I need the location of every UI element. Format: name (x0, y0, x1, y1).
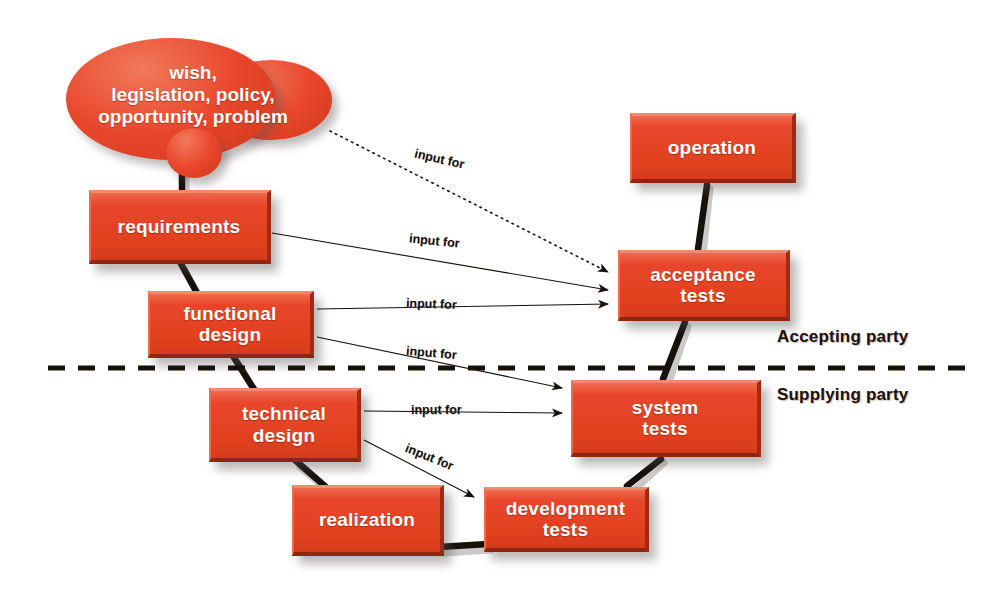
edge-label-input-for-5: input for (411, 403, 462, 417)
edge-label-input-for-3: input for (406, 296, 457, 312)
label-accepting-party: Accepting party (777, 327, 908, 347)
label-supplying-party: Supplying party (777, 385, 908, 405)
edge-label-input-for-5-text: input for (411, 403, 462, 417)
arrow-functional-design-to-system-tests (317, 337, 562, 388)
arrow-functional-design-to-acceptance-tests (317, 304, 608, 309)
arrow-layer (0, 0, 999, 601)
arrow-cloud-to-acceptance-tests (330, 131, 608, 272)
label-supplying-party-text: Supplying party (777, 385, 908, 404)
label-accepting-party-text: Accepting party (777, 327, 908, 346)
arrow-technical-design-to-system-tests (364, 411, 562, 413)
edge-label-input-for-3-text: input for (406, 296, 457, 312)
v-model-diagram: wish, legislation, policy, opportunity, … (0, 0, 999, 601)
